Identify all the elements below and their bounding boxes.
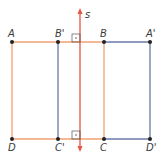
- arrow-up-icon: [78, 8, 83, 14]
- label-d: D: [8, 142, 16, 153]
- point-a-prime: [148, 40, 152, 44]
- label-axis-s: s: [85, 9, 90, 20]
- label-c: C: [100, 142, 107, 153]
- point-a: [10, 40, 14, 44]
- point-d-prime: [148, 137, 152, 141]
- label-a: A: [7, 28, 15, 39]
- point-b-prime: [56, 40, 60, 44]
- point-c-prime: [56, 137, 60, 141]
- point-c: [102, 137, 106, 141]
- vertex-labels: A B' B A' D C' C D' s: [7, 9, 156, 153]
- right-angle-dot-bottom: [75, 134, 77, 136]
- label-d-prime: D': [146, 142, 156, 153]
- vertex-points: [10, 40, 152, 141]
- label-a-prime: A': [145, 28, 156, 39]
- label-b: B: [100, 28, 107, 39]
- point-b: [102, 40, 106, 44]
- label-b-prime: B': [55, 28, 65, 39]
- symmetry-axis: [72, 8, 83, 152]
- point-d: [10, 137, 14, 141]
- right-angle-dot-top: [75, 37, 77, 39]
- label-c-prime: C': [55, 142, 65, 153]
- arrow-down-icon: [78, 146, 83, 152]
- reflection-diagram: A B' B A' D C' C D' s: [0, 0, 166, 154]
